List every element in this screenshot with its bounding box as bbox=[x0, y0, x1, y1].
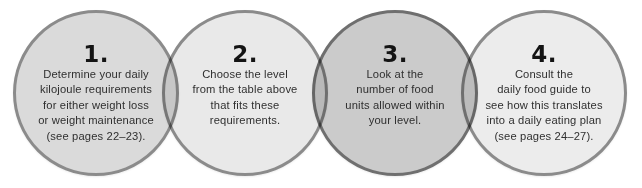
step-3-text: Look at the number of food units allowed… bbox=[345, 67, 444, 129]
four-step-circle-diagram: 1. Determine your daily kilojoule requir… bbox=[0, 0, 642, 188]
step-2: 2. Choose the level from the table above… bbox=[162, 10, 328, 176]
step-3: 3. Look at the number of food units allo… bbox=[312, 10, 478, 176]
step-1: 1. Determine your daily kilojoule requir… bbox=[13, 10, 179, 176]
step-1-number: 1. bbox=[83, 42, 109, 66]
step-2-number: 2. bbox=[232, 42, 258, 66]
step-2-text: Choose the level from the table above th… bbox=[193, 67, 298, 129]
step-4: 4. Consult the daily food guide to see h… bbox=[461, 10, 627, 176]
step-4-text: Consult the daily food guide to see how … bbox=[485, 67, 602, 144]
step-4-number: 4. bbox=[531, 42, 557, 66]
step-3-number: 3. bbox=[382, 42, 408, 66]
step-1-text: Determine your daily kilojoule requireme… bbox=[38, 67, 154, 144]
